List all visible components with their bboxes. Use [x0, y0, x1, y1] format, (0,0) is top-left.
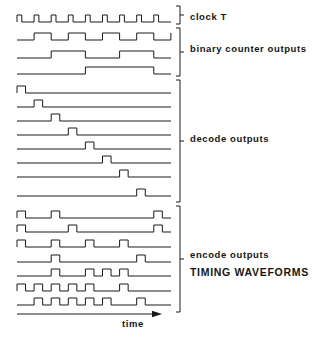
x-axis-label: time: [122, 318, 144, 329]
encode-out-5: [17, 284, 171, 291]
group-label-encode: encode outputs: [190, 249, 269, 260]
counter-bit-q2: [17, 51, 171, 58]
group-bracket-decode: [176, 80, 180, 202]
encode-out-1: [17, 225, 171, 232]
decode-out-3: [17, 128, 171, 135]
counter-bit-q1: [17, 33, 171, 40]
decode-out-1: [17, 100, 171, 107]
decode-out-7: [17, 189, 171, 196]
counter-bit-q3: [17, 67, 171, 74]
figure-title: TIMING WAVEFORMS: [190, 266, 309, 278]
timing-waveform-figure: clock T binary counter outputs decode ou…: [0, 0, 328, 340]
decode-out-0: [17, 86, 171, 93]
encode-out-3: [17, 255, 171, 262]
decode-out-6: [17, 170, 171, 177]
group-bracket-clock: [176, 6, 180, 24]
encode-out-2: [17, 240, 171, 247]
time-axis-arrowhead: [152, 311, 162, 317]
encode-out-6: [17, 298, 171, 305]
group-label-decode: decode outputs: [190, 133, 269, 144]
encode-out-4: [17, 269, 171, 276]
group-bracket-binary-counter: [176, 28, 180, 76]
clock-waveform: [17, 15, 171, 22]
decode-out-4: [17, 142, 171, 149]
encode-out-0: [17, 211, 171, 218]
group-label-binary-counter: binary counter outputs: [190, 43, 307, 54]
decode-out-5: [17, 156, 171, 163]
group-label-clock: clock T: [190, 11, 227, 22]
decode-out-2: [17, 114, 171, 121]
group-bracket-encode: [176, 206, 180, 312]
